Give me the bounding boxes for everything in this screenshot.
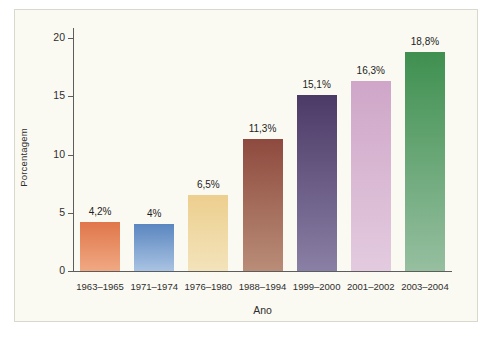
bar [134,224,174,271]
bar [188,195,228,271]
y-tick-label: 15 [35,90,65,101]
plot-area: 05101520 Porcentagem Ano 4,2%1963–19654%… [0,0,492,339]
y-tick-label: 0 [35,265,65,276]
y-tick-mark [68,213,74,214]
y-axis-line [73,28,74,272]
x-tick-label: 1971–1974 [130,282,178,292]
y-tick-mark [68,155,74,156]
bar-value-label: 11,3% [249,124,277,134]
bar-column [80,222,120,271]
y-tick-label: 10 [35,149,65,160]
bar-column [243,139,283,271]
bar-column [297,95,337,271]
y-tick-mark [68,271,74,272]
bar-value-label: 4,2% [89,207,112,217]
bar-value-label: 16,3% [357,66,385,76]
x-tick-label: 2003–2004 [401,282,449,292]
x-axis-line [73,271,452,272]
bar-value-label: 4% [147,209,161,219]
bar [297,95,337,271]
y-tick-mark [68,38,74,39]
bar [405,52,445,271]
bar-column [188,195,228,271]
y-tick-label: 20 [35,32,65,43]
chart-figure: 05101520 Porcentagem Ano 4,2%1963–19654%… [0,0,492,339]
x-axis-title: Ano [73,304,452,316]
x-tick-label: 1999–2000 [293,282,341,292]
bar-value-label: 18,8% [411,37,439,47]
x-tick-label: 1988–1994 [239,282,287,292]
bar-column [134,224,174,271]
bar [243,139,283,271]
bar-column [351,81,391,271]
y-tick-label: 5 [35,207,65,218]
bar [80,222,120,271]
bar-value-label: 6,5% [197,180,220,190]
y-tick-mark [68,96,74,97]
bar-value-label: 15,1% [302,80,330,90]
y-axis-title: Porcentagem [18,113,29,203]
bar [351,81,391,271]
x-tick-label: 1976–1980 [185,282,233,292]
bar-column [405,52,445,271]
x-tick-label: 2001–2002 [347,282,395,292]
x-tick-label: 1963–1965 [76,282,124,292]
